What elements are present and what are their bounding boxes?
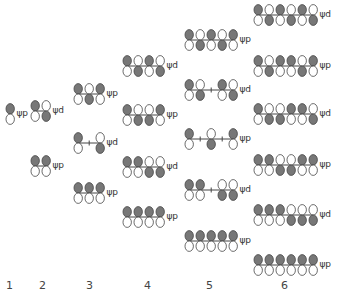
psi-label: ψd bbox=[239, 184, 251, 194]
psi-label: ψp bbox=[319, 259, 331, 269]
psi-label: ψd bbox=[319, 9, 331, 19]
orbital-chain-6-2: ψp bbox=[253, 55, 318, 77]
psi-label: ψp bbox=[239, 133, 251, 143]
orbital-chain-4-2: ψp bbox=[122, 104, 165, 126]
psi-label: ψd bbox=[319, 209, 331, 219]
orbital-chain-6-5: ψd bbox=[253, 204, 318, 226]
column-label-2: 2 bbox=[39, 279, 46, 292]
psi-label: ψp bbox=[239, 235, 251, 245]
column-label-1: 1 bbox=[6, 279, 13, 292]
orbital-chain-2-1: ψd bbox=[30, 100, 51, 122]
orbital-chain-6-6: ψp bbox=[253, 254, 318, 276]
orbital-chain-5-1: ψp bbox=[184, 29, 238, 51]
orbital-chain-6-4: ψp bbox=[253, 154, 318, 176]
orbital-chain-3-2: ψd bbox=[73, 132, 105, 154]
orbital-chain-5-4: ψd bbox=[184, 179, 238, 201]
orbital-chain-4-3: ψd bbox=[122, 156, 165, 178]
psi-label: ψd bbox=[239, 84, 251, 94]
orbital-chain-3-1: ψp bbox=[73, 83, 105, 105]
psi-label: ψd bbox=[52, 105, 64, 115]
orbital-chain-3-3: ψp bbox=[73, 182, 105, 204]
psi-label: ψp bbox=[16, 108, 28, 118]
psi-label: ψp bbox=[52, 160, 64, 170]
orbital-chain-6-1: ψd bbox=[253, 4, 318, 26]
psi-label: ψp bbox=[239, 34, 251, 44]
column-label-6: 6 bbox=[281, 279, 288, 292]
psi-label: ψd bbox=[166, 161, 178, 171]
column-label-3: 3 bbox=[86, 279, 93, 292]
psi-label: ψp bbox=[166, 211, 178, 221]
psi-label: ψp bbox=[319, 159, 331, 169]
psi-label: ψd bbox=[106, 137, 118, 147]
orbital-chain-4-1: ψd bbox=[122, 55, 165, 77]
orbital-chain-5-5: ψp bbox=[184, 230, 238, 252]
orbital-chain-1-1: ψp bbox=[5, 103, 15, 125]
orbital-chain-4-4: ψp bbox=[122, 206, 165, 228]
orbital-chain-5-3: ψp bbox=[184, 128, 238, 150]
psi-label: ψd bbox=[319, 108, 331, 118]
psi-label: ψp bbox=[106, 187, 118, 197]
psi-label: ψd bbox=[166, 60, 178, 70]
orbital-chain-2-2: ψp bbox=[30, 155, 51, 177]
psi-label: ψp bbox=[106, 88, 118, 98]
orbital-chain-6-3: ψd bbox=[253, 103, 318, 125]
column-label-4: 4 bbox=[144, 279, 151, 292]
psi-label: ψp bbox=[319, 60, 331, 70]
orbital-chain-5-2: ψd bbox=[184, 79, 238, 101]
psi-label: ψp bbox=[166, 109, 178, 119]
column-label-5: 5 bbox=[206, 279, 213, 292]
